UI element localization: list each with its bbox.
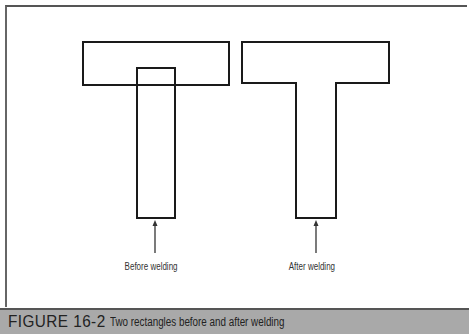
- welding-diagram: [0, 0, 469, 334]
- horizontal-rectangle: [83, 42, 229, 85]
- welded-t-shape: [242, 42, 389, 218]
- after-arrow: [314, 220, 319, 253]
- after-welding-figure: [242, 42, 389, 218]
- after-welding-label: After welding: [289, 261, 335, 272]
- before-welding-figure: [83, 42, 229, 218]
- vertical-rectangle: [137, 68, 175, 218]
- caption-band: FIGURE 16-2 Two rectangles before and af…: [0, 308, 469, 334]
- before-arrow: [153, 220, 158, 253]
- figure-caption: Two rectangles before and after welding: [110, 315, 284, 329]
- figure-number: FIGURE 16-2: [8, 312, 106, 332]
- before-welding-label: Before welding: [125, 261, 178, 272]
